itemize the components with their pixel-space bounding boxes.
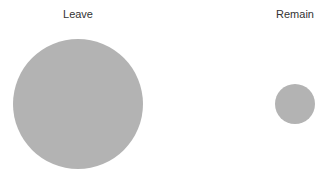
label-leave: Leave [63, 8, 93, 20]
label-remain: Remain [276, 8, 314, 20]
bubble-remain [275, 84, 315, 124]
bubble-leave [13, 39, 143, 169]
